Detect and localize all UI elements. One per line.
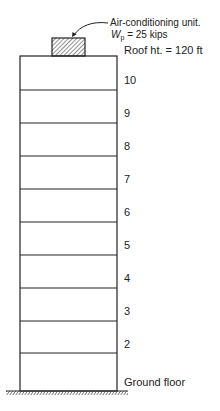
floor-label-9: 9: [124, 107, 130, 119]
floor-label-5: 5: [124, 239, 130, 251]
floor-label-4: 4: [124, 272, 130, 284]
floor-label-2: 2: [124, 338, 130, 350]
leader-arrow-icon: [72, 23, 108, 37]
weight-value: = 25 kips: [127, 29, 167, 40]
floor-label-6: 6: [124, 206, 130, 218]
air-conditioning-unit: [52, 38, 85, 56]
floor-label-8: 8: [124, 140, 130, 152]
weight-subscript: p: [120, 34, 124, 41]
floor-lines: [20, 90, 117, 353]
roof-height-label: Roof ht. = 120 ft: [124, 44, 203, 56]
equipment-label: Air-conditioning unit.: [110, 17, 201, 29]
floor-label-10: 10: [124, 74, 136, 86]
equipment-weight: Wp = 25 kips: [111, 29, 167, 44]
floor-label-ground: Ground floor: [124, 376, 185, 388]
ground-line: [6, 391, 128, 395]
building-frame: [20, 56, 117, 391]
floor-label-7: 7: [124, 173, 130, 185]
floor-label-3: 3: [124, 305, 130, 317]
building-elevation-diagram: [0, 0, 220, 411]
